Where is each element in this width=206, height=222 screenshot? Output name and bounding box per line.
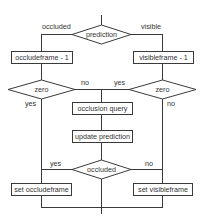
decision-zero-right: zero — [129, 80, 196, 99]
flowchart: prediction occluded visible occludeframe… — [0, 0, 206, 222]
edge-label-occluded-yes: yes — [50, 159, 62, 168]
edge-prediction-visible — [131, 35, 163, 52]
flowchart-canvas: prediction occluded visible occludeframe… — [0, 0, 206, 222]
decision-zero-left-label: zero — [35, 85, 49, 94]
process-visibleframe-decrement-label: visibleframe - 1 — [139, 53, 188, 62]
decision-prediction-label: prediction — [86, 30, 117, 39]
process-set-occludeframe-label: set occludeframe — [14, 185, 69, 194]
decision-prediction: prediction — [72, 25, 131, 44]
process-occlusion-query-label: occlusion query — [78, 104, 128, 113]
edge-label-occluded-no: no — [145, 159, 153, 168]
process-set-visibleframe: set visibleframe — [134, 184, 193, 196]
process-update-prediction: update prediction — [73, 131, 133, 143]
edge-label-zero-left-no: no — [81, 78, 89, 87]
edge-prediction-occluded — [42, 35, 73, 52]
edge-label-zero-left-yes: yes — [25, 99, 37, 108]
edge-label-occluded: occluded — [42, 22, 71, 31]
process-visibleframe-decrement: visibleframe - 1 — [134, 52, 194, 64]
process-set-visibleframe-label: set visibleframe — [138, 185, 188, 194]
edge-label-visible: visible — [141, 22, 161, 31]
process-set-occludeframe: set occludeframe — [12, 184, 72, 196]
decision-zero-right-label: zero — [156, 85, 170, 94]
edge-label-zero-right-yes: yes — [114, 78, 126, 87]
process-occlusion-query: occlusion query — [73, 103, 133, 115]
process-occludeframe-decrement-label: occludeframe - 1 — [15, 53, 69, 62]
decision-occluded: occluded — [72, 160, 131, 179]
process-occludeframe-decrement: occludeframe - 1 — [12, 52, 73, 64]
edge-label-zero-right-no: no — [167, 99, 175, 108]
process-update-prediction-label: update prediction — [75, 132, 130, 141]
decision-occluded-label: occluded — [87, 165, 116, 174]
decision-zero-left: zero — [8, 80, 75, 99]
